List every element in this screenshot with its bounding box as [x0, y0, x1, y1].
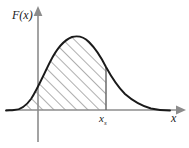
- figure-canvas: [0, 0, 189, 148]
- y-axis-arrowhead: [34, 6, 43, 16]
- y-axis-title: F(x): [12, 9, 33, 21]
- threshold-subscript: s: [104, 119, 107, 127]
- probability-density-figure: F(x) x xs: [0, 0, 189, 148]
- y-axis: [34, 6, 43, 142]
- x-axis-arrowhead: [176, 106, 186, 115]
- x-axis-title: x: [171, 112, 176, 124]
- shaded-area-under-curve: [0, 0, 189, 148]
- hatch-fill: [0, 0, 189, 148]
- threshold-tick-label: xs: [99, 113, 107, 127]
